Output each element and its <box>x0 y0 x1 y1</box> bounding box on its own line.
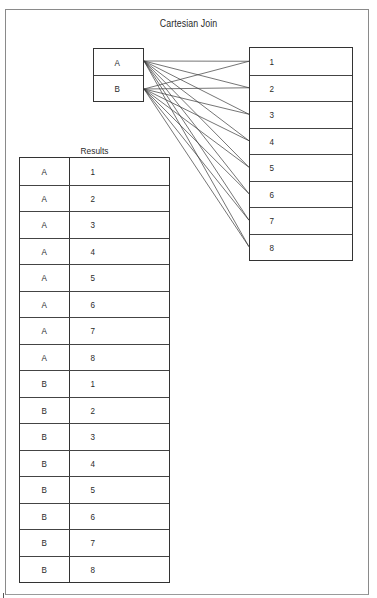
right-table-cell-label: 3 <box>269 109 274 120</box>
results-row: B3 <box>20 423 169 450</box>
row-divider <box>20 291 169 292</box>
results-number-cell: 4 <box>90 245 95 256</box>
right-table: 12345678 <box>249 47 353 261</box>
results-letter-cell: A <box>41 192 46 203</box>
row-divider <box>250 207 352 208</box>
results-row: B1 <box>20 370 169 397</box>
join-line <box>144 89 249 114</box>
row-divider <box>20 370 169 371</box>
left-table: AB <box>93 48 144 102</box>
results-row: B5 <box>20 476 169 503</box>
join-line <box>144 89 249 141</box>
row-divider <box>250 101 352 102</box>
row-divider <box>20 556 169 557</box>
results-row: B4 <box>20 450 169 477</box>
right-table-row: 1 <box>250 48 352 75</box>
results-letter-cell: A <box>41 325 46 336</box>
row-divider <box>20 450 169 451</box>
results-row: A7 <box>20 317 169 344</box>
right-table-row: 4 <box>250 128 352 155</box>
results-number-cell: 5 <box>90 484 95 495</box>
row-divider <box>20 211 169 212</box>
results-row: B7 <box>20 529 169 556</box>
row-divider <box>250 128 352 129</box>
results-number-cell: 6 <box>90 510 95 521</box>
row-divider <box>20 185 169 186</box>
results-letter-cell: B <box>41 404 46 415</box>
results-number-cell: 8 <box>90 563 95 574</box>
results-letter-cell: B <box>41 431 46 442</box>
right-table-cell-label: 2 <box>269 82 274 93</box>
join-line <box>144 61 249 89</box>
results-number-cell: 6 <box>90 298 95 309</box>
left-table-cell-label: A <box>114 57 119 68</box>
right-table-row: 6 <box>250 181 352 208</box>
right-table-cell-label: 1 <box>269 56 274 67</box>
row-divider <box>20 344 169 345</box>
results-row: B2 <box>20 397 169 424</box>
join-line <box>144 61 249 88</box>
right-table-row: 8 <box>250 234 352 261</box>
results-number-cell: 2 <box>90 404 95 415</box>
results-row: A5 <box>20 264 169 291</box>
results-table: A1A2A3A4A5A6A7A8B1B2B3B4B5B6B7B8 <box>19 157 170 583</box>
results-number-cell: 1 <box>90 378 95 389</box>
right-table-row: 5 <box>250 154 352 181</box>
results-letter-cell: A <box>41 166 46 177</box>
results-row: A1 <box>20 158 169 185</box>
results-letter-cell: B <box>41 563 46 574</box>
results-letter-cell: A <box>41 298 46 309</box>
results-row: A6 <box>20 291 169 318</box>
results-number-cell: 7 <box>90 325 95 336</box>
results-row: B8 <box>20 556 169 583</box>
row-divider <box>20 264 169 265</box>
results-letter-cell: A <box>41 272 46 283</box>
results-letter-cell: A <box>41 219 46 230</box>
right-table-cell-label: 6 <box>269 188 274 199</box>
results-letter-cell: B <box>41 510 46 521</box>
results-row: A2 <box>20 185 169 212</box>
results-number-cell: 2 <box>90 192 95 203</box>
row-divider <box>250 75 352 76</box>
results-number-cell: 4 <box>90 457 95 468</box>
row-divider <box>250 234 352 235</box>
results-number-cell: 3 <box>90 431 95 442</box>
row-divider <box>250 154 352 155</box>
row-divider <box>250 181 352 182</box>
left-table-row: B <box>94 75 143 101</box>
results-letter-cell: B <box>41 457 46 468</box>
row-divider <box>20 423 169 424</box>
results-row: A8 <box>20 344 169 371</box>
results-letter-cell: A <box>41 351 46 362</box>
results-number-cell: 7 <box>90 537 95 548</box>
results-number-cell: 8 <box>90 351 95 362</box>
results-number-cell: 5 <box>90 272 95 283</box>
results-row: A3 <box>20 211 169 238</box>
right-table-cell-label: 4 <box>269 135 274 146</box>
row-divider <box>20 397 169 398</box>
row-divider <box>20 476 169 477</box>
results-row: A4 <box>20 238 169 265</box>
results-letter-cell: B <box>41 484 46 495</box>
row-divider <box>94 75 143 76</box>
right-table-cell-label: 5 <box>269 162 274 173</box>
left-table-cell-label: B <box>114 83 119 94</box>
results-row: B6 <box>20 503 169 530</box>
right-table-cell-label: 8 <box>269 241 274 252</box>
results-number-cell: 1 <box>90 166 95 177</box>
right-table-row: 7 <box>250 207 352 234</box>
right-table-row: 3 <box>250 101 352 128</box>
results-number-cell: 3 <box>90 219 95 230</box>
row-divider <box>20 317 169 318</box>
row-divider <box>20 238 169 239</box>
right-table-cell-label: 7 <box>269 215 274 226</box>
row-divider <box>20 503 169 504</box>
results-letter-cell: A <box>41 245 46 256</box>
left-table-row: A <box>94 49 143 75</box>
results-letter-cell: B <box>41 537 46 548</box>
right-table-row: 2 <box>250 75 352 102</box>
results-letter-cell: B <box>41 378 46 389</box>
results-title: Results <box>28 145 161 156</box>
row-divider <box>20 529 169 530</box>
